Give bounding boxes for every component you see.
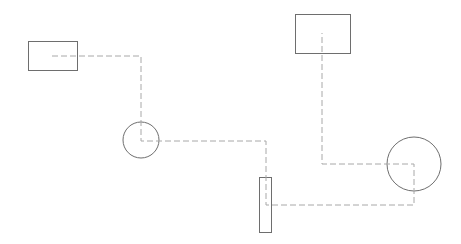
connectors-layer <box>52 33 414 205</box>
shapes-layer <box>29 15 442 233</box>
dashed-connector <box>52 33 414 205</box>
diagram-canvas <box>0 0 461 244</box>
rect-2-shape <box>296 15 351 54</box>
